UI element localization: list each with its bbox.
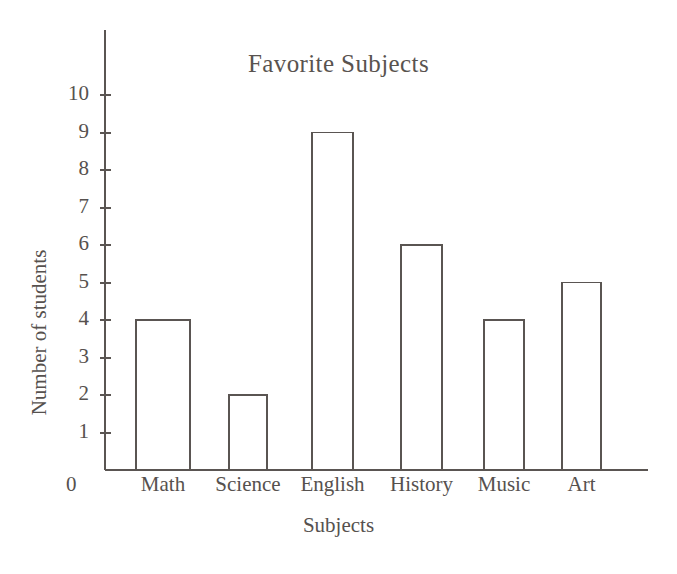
- bar-english: [312, 133, 353, 471]
- y-axis-title: Number of students: [27, 218, 52, 448]
- x-axis-tick-label: Art: [512, 472, 652, 497]
- y-axis-tick-label: 3: [49, 344, 89, 369]
- y-axis-tick-label: 6: [49, 231, 89, 256]
- bar-history: [401, 245, 442, 470]
- bar-art: [562, 283, 601, 471]
- chart-title: Favorite Subjects: [0, 50, 677, 78]
- y-axis-tick-label: 1: [49, 419, 89, 444]
- x-axis-title: Subjects: [0, 513, 677, 538]
- bar-math: [136, 320, 190, 470]
- y-axis-tick-label: 2: [49, 381, 89, 406]
- y-axis-tick-label: 4: [49, 306, 89, 331]
- y-axis-tick-label: 5: [49, 269, 89, 294]
- bar-chart: Favorite Subjects 12345678910 0 MathScie…: [0, 0, 677, 574]
- bar-music: [484, 320, 524, 470]
- y-axis-origin-label: 0: [66, 472, 77, 497]
- y-axis-tick-label: 8: [49, 156, 89, 181]
- y-axis-tick-label: 9: [49, 119, 89, 144]
- y-axis-tick-label: 7: [49, 194, 89, 219]
- bar-science: [229, 395, 267, 470]
- y-axis-tick-label: 10: [49, 81, 89, 106]
